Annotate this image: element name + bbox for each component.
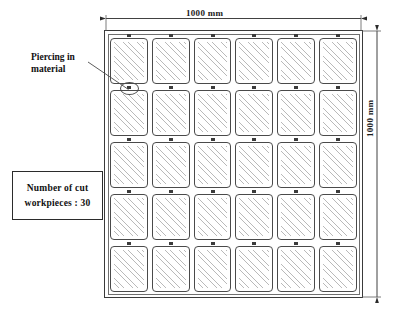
workpiece-cell — [192, 190, 234, 242]
workpiece-cell — [150, 242, 192, 294]
workpiece-hatch — [114, 146, 144, 185]
piercing-tab-icon — [169, 34, 173, 37]
workpiece-cell — [108, 86, 150, 138]
right-dimension-label: 1000 mm — [365, 97, 375, 140]
workpiece-hatch — [239, 198, 269, 237]
workpiece — [110, 38, 148, 85]
workpiece-cell — [275, 86, 317, 138]
workpiece-hatch — [281, 94, 311, 133]
piercing-tab-icon — [336, 242, 340, 245]
workpiece-cell — [150, 34, 192, 86]
piercing-tab-icon — [211, 138, 215, 141]
workpiece — [277, 194, 315, 241]
piercing-tab-icon — [211, 190, 215, 193]
workpiece-hatch — [281, 146, 311, 185]
workpiece-hatch — [239, 42, 269, 81]
workpiece-hatch — [156, 94, 186, 133]
workpiece — [110, 246, 148, 293]
piercing-tab-icon — [252, 86, 256, 89]
workpiece-hatch — [114, 94, 144, 133]
workpiece-cell — [150, 138, 192, 190]
workpiece — [152, 142, 190, 189]
workpiece-hatch — [114, 250, 144, 289]
piercing-tab-icon — [127, 190, 131, 193]
workpiece — [235, 142, 273, 189]
piercing-tab-icon — [169, 138, 173, 141]
workpiece-cell — [317, 242, 359, 294]
workpiece — [110, 142, 148, 189]
piercing-tab-icon — [211, 34, 215, 37]
workpiece-hatch — [156, 146, 186, 185]
workpiece — [319, 142, 357, 189]
workpiece — [110, 90, 148, 137]
workpiece — [319, 194, 357, 241]
workpiece — [235, 246, 273, 293]
workpiece-hatch — [323, 250, 353, 289]
piercing-tab-icon — [336, 86, 340, 89]
workpiece-hatch — [156, 198, 186, 237]
workpiece-cell — [233, 34, 275, 86]
workpiece — [319, 246, 357, 293]
workpiece — [152, 38, 190, 85]
workpiece-hatch — [156, 250, 186, 289]
workpiece — [194, 194, 232, 241]
workpiece — [152, 194, 190, 241]
workpiece-count-box: Number of cut workpieces : 30 — [12, 171, 103, 220]
workpiece-cell — [150, 190, 192, 242]
workpiece-cell — [192, 138, 234, 190]
cutting-layout-diagram: 1000 mm 1000 mm Piercing in material Num… — [0, 0, 395, 316]
workpiece-cell — [317, 34, 359, 86]
workpiece-hatch — [198, 250, 228, 289]
workpiece-cell — [233, 242, 275, 294]
piercing-tab-icon — [294, 34, 298, 37]
workpiece-hatch — [239, 146, 269, 185]
workpiece-hatch — [198, 146, 228, 185]
workpiece-hatch — [323, 198, 353, 237]
workpiece-cell — [317, 190, 359, 242]
workpiece-hatch — [323, 146, 353, 185]
workpiece-cell — [192, 242, 234, 294]
workpiece-cell — [108, 190, 150, 242]
workpiece-hatch — [156, 42, 186, 81]
workpiece-cell — [108, 34, 150, 86]
top-dimension-label: 1000 mm — [183, 8, 226, 18]
workpiece-cell — [108, 138, 150, 190]
workpiece-cell — [233, 138, 275, 190]
workpiece-hatch — [239, 94, 269, 133]
workpiece-cell — [275, 34, 317, 86]
workpiece-cell — [233, 190, 275, 242]
workpiece — [194, 142, 232, 189]
dimension-arrow-vertical-icon — [362, 31, 381, 297]
workpiece — [152, 90, 190, 137]
piercing-tab-icon — [127, 138, 131, 141]
workpiece-cell — [192, 86, 234, 138]
workpiece-hatch — [114, 42, 144, 81]
workpiece — [194, 246, 232, 293]
piercing-tab-icon — [127, 34, 131, 37]
workpiece-hatch — [323, 42, 353, 81]
workpiece — [235, 90, 273, 137]
workpiece-hatch — [281, 42, 311, 81]
piercing-tab-icon — [294, 138, 298, 141]
workpiece — [277, 142, 315, 189]
workpiece-cell — [275, 138, 317, 190]
workpiece — [319, 38, 357, 85]
piercing-tab-icon — [211, 86, 215, 89]
piercing-tab-icon — [294, 242, 298, 245]
workpiece — [235, 194, 273, 241]
workpiece-cell — [233, 86, 275, 138]
workpiece — [319, 90, 357, 137]
workpiece-hatch — [323, 94, 353, 133]
piercing-tab-icon — [252, 138, 256, 141]
piercing-tab-icon — [294, 86, 298, 89]
workpiece-hatch — [198, 94, 228, 133]
workpiece-hatch — [281, 250, 311, 289]
piercing-tab-icon — [211, 242, 215, 245]
workpiece-count-line2: workpieces : 30 — [25, 196, 91, 211]
workpiece-cell — [275, 190, 317, 242]
piercing-tab-icon — [169, 86, 173, 89]
workpiece-hatch — [239, 250, 269, 289]
dimension-arrow-horizontal-icon — [106, 15, 361, 31]
workpiece — [152, 246, 190, 293]
workpiece — [277, 90, 315, 137]
